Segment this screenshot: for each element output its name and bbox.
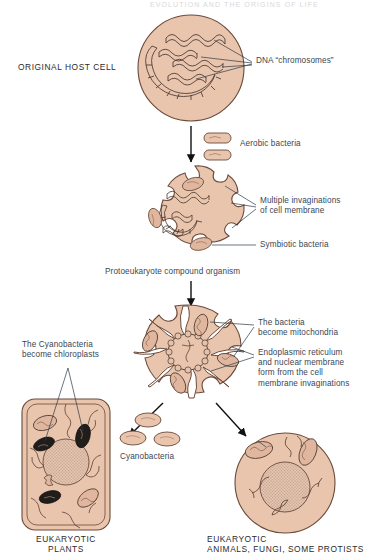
stage-4a-plant-cell (22, 368, 110, 530)
label-cyanobacteria: Cyanobacteria (120, 452, 174, 462)
label-multiple-invaginations: Multiple invaginations of cell membrane (260, 196, 340, 216)
caption-eukaryotic-plants: EUKARYOTIC PLANTS (20, 534, 112, 555)
caption-eukaryotic-animals: EUKARYOTIC ANIMALS, FUNGI, SOME PROTISTS (207, 534, 364, 555)
diagram-graphics (0, 0, 377, 560)
diagram-canvas: EVOLUTION AND THE ORIGINS OF LIFE (0, 0, 377, 560)
cyanobacteria-group (120, 413, 180, 446)
label-original-host-cell: ORIGINAL HOST CELL (18, 62, 116, 72)
stage-1-host-cell (138, 15, 252, 121)
label-cyanobacteria-become-chloroplasts: The Cyanobacteria become chloroplasts (22, 340, 99, 360)
label-aerobic-bacteria: Aerobic bacteria (240, 139, 301, 149)
stage-4b-animal-cell (235, 433, 335, 533)
label-dna-chromosomes: DNA “chromosomes” (256, 56, 334, 66)
label-protoeukaryote-compound-organism: Protoeukaryote compound organism (105, 267, 240, 277)
arrow-stage3-to-animal (216, 403, 246, 436)
label-bacteria-become-mitochondria: The bacteria become mitochondria (258, 318, 338, 338)
label-endoplasmic-reticulum: Endoplasmic reticulum and nuclear membra… (258, 348, 349, 389)
label-symbiotic-bacteria: Symbiotic bacteria (260, 240, 329, 250)
stage-3-compartmentalized-cell (134, 305, 254, 398)
aerobic-bacteria-group (204, 133, 231, 160)
stage-2-protoeukaryote (146, 166, 256, 253)
